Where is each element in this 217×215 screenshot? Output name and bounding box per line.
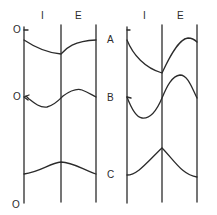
left-phase-label-e: E [75, 11, 82, 21]
respiratory-phase-diagram [0, 0, 217, 215]
origin-label-middle: O [13, 92, 21, 102]
right-phase-label-i: I [143, 11, 146, 21]
origin-label-top: O [13, 25, 21, 35]
row-label-b: B [107, 93, 114, 103]
row-label-c: C [107, 170, 114, 180]
left-curve-c [24, 162, 96, 174]
left-phase-label-i: I [41, 11, 44, 21]
right-phase-label-e: E [177, 11, 184, 21]
origin-label-bottom: O [12, 200, 20, 210]
row-label-a: A [107, 35, 114, 45]
left-curve-a [24, 40, 96, 54]
